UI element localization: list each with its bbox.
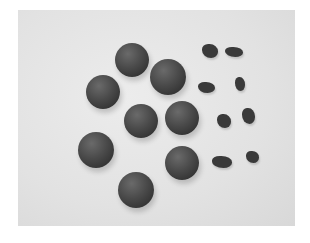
dried-piece (235, 77, 245, 91)
ball (150, 59, 186, 95)
dried-piece (212, 156, 232, 168)
ball (115, 43, 149, 77)
ball (124, 104, 158, 138)
ball (86, 75, 120, 109)
dried-piece (242, 108, 255, 124)
dried-piece (246, 151, 259, 163)
dried-piece (202, 44, 218, 58)
dried-piece (217, 114, 231, 128)
dried-piece (198, 82, 215, 93)
ball (165, 101, 199, 135)
dried-piece (225, 47, 243, 57)
photo (18, 10, 295, 226)
ball (78, 132, 114, 168)
ball (165, 146, 199, 180)
ball (118, 172, 154, 208)
